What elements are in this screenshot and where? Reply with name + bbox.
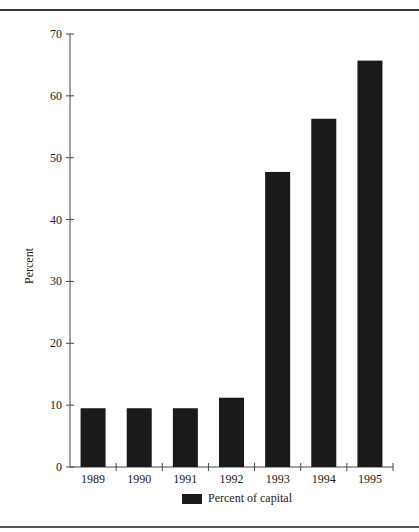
y-tick-label: 50 bbox=[50, 151, 62, 165]
x-tick-label: 1993 bbox=[266, 472, 290, 486]
y-tick-label: 0 bbox=[56, 460, 62, 474]
bottom-rule bbox=[0, 526, 419, 528]
x-tick-label: 1995 bbox=[358, 472, 382, 486]
bar bbox=[311, 119, 336, 467]
bar bbox=[219, 398, 244, 467]
y-tick-label: 40 bbox=[50, 213, 62, 227]
y-tick-label: 70 bbox=[50, 27, 62, 41]
y-tick-label: 30 bbox=[50, 274, 62, 288]
bar-chart: 010203040506070Percent198919901991199219… bbox=[0, 0, 419, 532]
x-tick-label: 1992 bbox=[220, 472, 244, 486]
x-tick-label: 1989 bbox=[81, 472, 105, 486]
y-tick-label: 60 bbox=[50, 89, 62, 103]
legend-label: Percent of capital bbox=[208, 491, 292, 506]
y-tick-label: 20 bbox=[50, 336, 62, 350]
y-axis-label: Percent bbox=[22, 247, 36, 284]
x-tick-label: 1990 bbox=[127, 472, 151, 486]
x-tick-label: 1994 bbox=[312, 472, 336, 486]
y-tick-label: 10 bbox=[50, 398, 62, 412]
bar bbox=[127, 408, 152, 467]
legend-swatch bbox=[182, 494, 202, 504]
x-tick-label: 1991 bbox=[173, 472, 197, 486]
bar bbox=[357, 61, 382, 467]
legend: Percent of capital bbox=[182, 491, 292, 506]
bar bbox=[81, 408, 106, 467]
bar bbox=[173, 408, 198, 467]
bar bbox=[265, 172, 290, 467]
